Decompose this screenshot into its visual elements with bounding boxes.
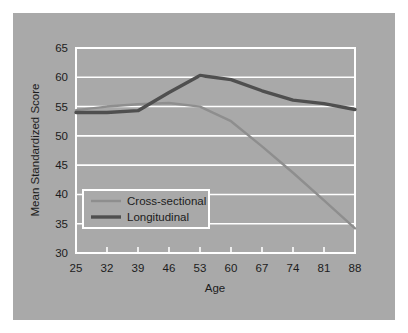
y-tick-label: 60 — [55, 71, 68, 83]
y-axis-title: Mean Standardized Score — [29, 84, 41, 217]
x-tick-label: 39 — [132, 262, 145, 274]
y-tick-label: 45 — [55, 159, 68, 171]
x-axis-tick-labels: 25323946536067748188 — [70, 262, 362, 274]
x-tick-label: 46 — [163, 262, 176, 274]
x-tick-label: 67 — [256, 262, 269, 274]
chart-panel: 3035404550556065 25323946536067748188 Ag… — [13, 13, 395, 320]
legend-label-longitudinal: Longitudinal — [127, 211, 189, 223]
y-tick-label: 55 — [55, 101, 68, 113]
y-axis-tick-labels: 3035404550556065 — [55, 42, 68, 259]
legend-label-cross-sectional: Cross-sectional — [127, 195, 206, 207]
x-tick-label: 74 — [287, 262, 300, 274]
x-tick-label: 25 — [70, 262, 83, 274]
chart-screenshot: 3035404550556065 25323946536067748188 Ag… — [0, 0, 408, 333]
x-axis-title: Age — [205, 282, 225, 294]
x-tick-label: 81 — [318, 262, 331, 274]
legend: Cross-sectional Longitudinal — [83, 190, 209, 228]
y-tick-label: 50 — [55, 130, 68, 142]
y-tick-label: 35 — [55, 218, 68, 230]
y-tick-label: 65 — [55, 42, 68, 54]
x-tick-label: 88 — [349, 262, 362, 274]
x-tick-label: 53 — [194, 262, 207, 274]
y-tick-label: 40 — [55, 188, 68, 200]
y-tick-label: 30 — [55, 247, 68, 259]
x-tick-label: 32 — [101, 262, 114, 274]
line-chart: 3035404550556065 25323946536067748188 Ag… — [13, 13, 395, 320]
x-tick-label: 60 — [225, 262, 238, 274]
